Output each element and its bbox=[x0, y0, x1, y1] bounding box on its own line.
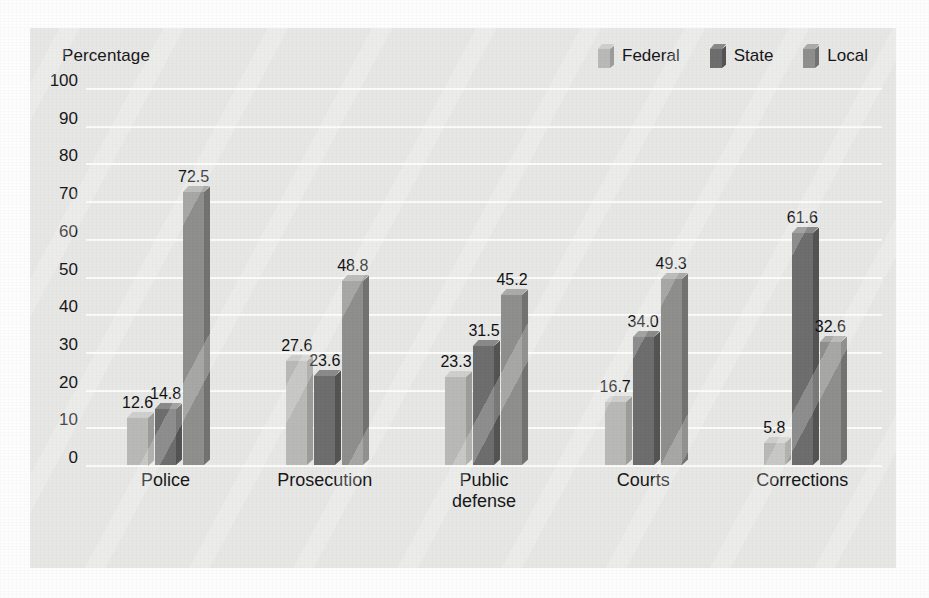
bar-front-face bbox=[633, 337, 654, 465]
bar-value-label: 27.6 bbox=[281, 338, 312, 354]
bar-value-label: 23.6 bbox=[309, 353, 340, 369]
bar[interactable]: 61.6 bbox=[792, 233, 813, 465]
y-axis-tick-label: 30 bbox=[59, 335, 78, 355]
bar-side-face bbox=[363, 276, 369, 465]
bar[interactable]: 12.6 bbox=[127, 418, 148, 466]
x-axis-label-line: Police bbox=[106, 470, 226, 491]
bar-value-label: 14.8 bbox=[150, 386, 181, 402]
y-axis-tick-label: 70 bbox=[59, 184, 78, 204]
bar-group: 16.734.049.3 bbox=[605, 88, 682, 465]
bar-value-label: 32.6 bbox=[815, 319, 846, 335]
y-axis-tick-label: 0 bbox=[69, 448, 78, 468]
legend-swatch-icon bbox=[598, 44, 613, 68]
x-axis-label-line: defense bbox=[424, 491, 544, 512]
y-axis-tick-label: 20 bbox=[59, 373, 78, 393]
bar-front-face bbox=[127, 418, 148, 466]
bar-front-face bbox=[445, 377, 466, 465]
bar-side-face bbox=[466, 372, 472, 465]
legend-swatch-icon bbox=[803, 44, 818, 68]
y-axis-tick-label: 50 bbox=[59, 260, 78, 280]
bar[interactable]: 27.6 bbox=[286, 361, 307, 465]
bar[interactable]: 34.0 bbox=[633, 337, 654, 465]
legend-label: Federal bbox=[622, 46, 680, 66]
bar-series-layer: 12.614.872.527.623.648.823.331.545.216.7… bbox=[86, 88, 882, 465]
x-axis-label-line: Courts bbox=[583, 470, 703, 491]
bar-value-label: 12.6 bbox=[122, 395, 153, 411]
bar-value-label: 61.6 bbox=[787, 210, 818, 226]
bar-front-face bbox=[501, 295, 522, 465]
y-axis-title: Percentage bbox=[62, 46, 150, 66]
bar-side-face bbox=[335, 371, 341, 465]
x-axis-label-line: Public bbox=[424, 470, 544, 491]
gridline bbox=[86, 465, 882, 467]
bar-side-face bbox=[841, 337, 847, 465]
bar[interactable]: 72.5 bbox=[183, 192, 204, 465]
bar-value-label: 34.0 bbox=[628, 314, 659, 330]
bar-side-face bbox=[176, 404, 182, 465]
bar[interactable]: 23.3 bbox=[445, 377, 466, 465]
plot-grid: 1009080706050403020100 12.614.872.527.62… bbox=[86, 88, 882, 465]
page-canvas: Percentage FederalStateLocal 10090807060… bbox=[0, 0, 929, 598]
bar-side-face bbox=[204, 186, 210, 465]
bar-front-face bbox=[820, 342, 841, 465]
bar-front-face bbox=[155, 409, 176, 465]
bar-side-face bbox=[813, 227, 819, 465]
bar[interactable]: 23.6 bbox=[314, 376, 335, 465]
bar-value-label: 23.3 bbox=[440, 354, 471, 370]
bar-side-face bbox=[654, 331, 660, 465]
bar-front-face bbox=[792, 233, 813, 465]
legend-item-local[interactable]: Local bbox=[803, 44, 868, 68]
x-axis-label-line: Prosecution bbox=[265, 470, 385, 491]
y-axis-tick-label: 60 bbox=[59, 222, 78, 242]
bar-front-face bbox=[183, 192, 204, 465]
x-axis-label: Police bbox=[106, 470, 226, 491]
bar-front-face bbox=[314, 376, 335, 465]
bar-side-face bbox=[522, 289, 528, 465]
bar-side-face bbox=[307, 356, 313, 465]
bar-front-face bbox=[605, 402, 626, 465]
bar-side-face bbox=[148, 412, 154, 465]
y-axis-tick-label: 80 bbox=[59, 146, 78, 166]
legend-item-federal[interactable]: Federal bbox=[598, 44, 680, 68]
legend-label: State bbox=[734, 46, 774, 66]
bar-side-face bbox=[626, 397, 632, 465]
y-axis-tick-label: 90 bbox=[59, 109, 78, 129]
bar[interactable]: 45.2 bbox=[501, 295, 522, 465]
bar-front-face bbox=[286, 361, 307, 465]
legend-swatch-icon bbox=[710, 44, 725, 68]
x-axis-label-line: Corrections bbox=[742, 470, 862, 491]
bar-group: 5.861.632.6 bbox=[764, 88, 841, 465]
bar[interactable]: 32.6 bbox=[820, 342, 841, 465]
y-axis-tick-label: 40 bbox=[59, 297, 78, 317]
bar-group: 23.331.545.2 bbox=[445, 88, 522, 465]
bar[interactable]: 31.5 bbox=[473, 346, 494, 465]
bar-side-face bbox=[785, 438, 791, 465]
bar-front-face bbox=[764, 443, 785, 465]
x-axis-label: Prosecution bbox=[265, 470, 385, 491]
x-axis-category-labels: PoliceProsecutionPublicdefenseCourtsCorr… bbox=[86, 470, 882, 528]
bar[interactable]: 14.8 bbox=[155, 409, 176, 465]
x-axis-label: Corrections bbox=[742, 470, 862, 491]
bar-value-label: 72.5 bbox=[178, 169, 209, 185]
bar-group: 12.614.872.5 bbox=[127, 88, 204, 465]
bar[interactable]: 48.8 bbox=[342, 281, 363, 465]
bar-side-face bbox=[494, 341, 500, 465]
x-axis-label: Courts bbox=[583, 470, 703, 491]
bar-value-label: 49.3 bbox=[656, 256, 687, 272]
bar-value-label: 16.7 bbox=[600, 379, 631, 395]
bar-front-face bbox=[661, 279, 682, 465]
bar[interactable]: 49.3 bbox=[661, 279, 682, 465]
bar[interactable]: 5.8 bbox=[764, 443, 785, 465]
y-axis-tick-label: 100 bbox=[50, 71, 78, 91]
bar-side-face bbox=[682, 274, 688, 465]
bar-front-face bbox=[473, 346, 494, 465]
x-axis-label: Publicdefense bbox=[424, 470, 544, 512]
bar[interactable]: 16.7 bbox=[605, 402, 626, 465]
bar-value-label: 48.8 bbox=[337, 258, 368, 274]
legend-item-state[interactable]: State bbox=[710, 44, 774, 68]
chart-plot-area: Percentage FederalStateLocal 10090807060… bbox=[30, 28, 896, 568]
bar-value-label: 45.2 bbox=[496, 272, 527, 288]
bar-front-face bbox=[342, 281, 363, 465]
y-axis-tick-label: 10 bbox=[59, 410, 78, 430]
legend-label: Local bbox=[827, 46, 868, 66]
